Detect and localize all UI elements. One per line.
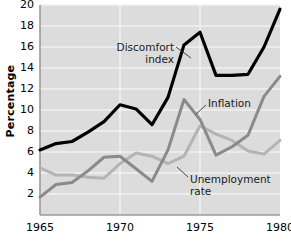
annotation-unemployment-line2: rate — [190, 185, 211, 197]
chart-figure: Percentage 2468101214161820 196519701975… — [0, 0, 291, 249]
annotation-discomfort-line1: Discomfort — [117, 41, 174, 53]
annotation-inflation: Inflation — [208, 98, 251, 110]
x-tick-label-1980: 1980 — [266, 222, 291, 233]
y-tick-label-18: 18 — [0, 21, 34, 31]
y-tick-label-4: 4 — [0, 168, 34, 178]
x-tick-label-1975: 1975 — [186, 222, 214, 233]
annotation-discomfort-index: Discomfort index — [106, 42, 174, 65]
y-tick-label-10: 10 — [0, 105, 34, 115]
y-tick-label-14: 14 — [0, 63, 34, 73]
annotation-unemployment-rate: Unemployment rate — [190, 174, 275, 197]
y-tick-label-6: 6 — [0, 147, 34, 157]
y-tick-label-20: 20 — [0, 0, 34, 10]
y-tick-label-8: 8 — [0, 126, 34, 136]
series-line-discomfort-index — [40, 9, 280, 150]
unemployment-leader-line — [177, 167, 188, 177]
annotation-unemployment-line1: Unemployment — [190, 173, 271, 185]
annotation-inflation-line1: Inflation — [208, 97, 251, 109]
x-tick-label-1965: 1965 — [26, 222, 54, 233]
y-tick-label-16: 16 — [0, 42, 34, 52]
chart-canvas — [0, 0, 291, 249]
y-tick-label-2: 2 — [0, 189, 34, 199]
y-tick-label-12: 12 — [0, 84, 34, 94]
x-tick-label-1970: 1970 — [106, 222, 134, 233]
annotation-discomfort-line2: index — [145, 53, 174, 65]
